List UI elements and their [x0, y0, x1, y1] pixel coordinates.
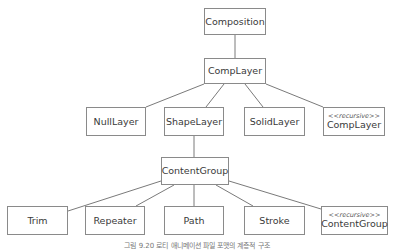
node-label: Trim [27, 216, 47, 226]
node-recursive-content-group: <<recursive>> ContentGroup [321, 206, 388, 235]
node-stroke: Stroke [244, 206, 305, 235]
node-label: ContentGroup [321, 219, 388, 229]
node-label: CompLayer [208, 66, 262, 76]
node-label: ContentGroup [162, 166, 229, 176]
node-shape-layer: ShapeLayer [164, 107, 224, 136]
node-label: Path [184, 216, 205, 226]
node-path: Path [164, 206, 224, 235]
node-label: SolidLayer [250, 117, 300, 127]
node-label: CompLayer [327, 120, 381, 130]
node-trim: Trim [7, 206, 68, 235]
node-label: Stroke [259, 216, 289, 226]
node-repeater: Repeater [85, 206, 145, 235]
node-label: NullLayer [94, 117, 139, 127]
node-content-group: ContentGroup [161, 157, 229, 185]
node-comp-layer: CompLayer [204, 58, 266, 84]
node-label: Composition [205, 17, 264, 27]
node-composition: Composition [204, 8, 266, 35]
node-label: ShapeLayer [166, 117, 222, 127]
figure-caption: 그림 9.20 로티 애니메이션 파일 포맷의 계층적 구조 [0, 240, 394, 250]
node-solid-layer: SolidLayer [244, 107, 305, 136]
node-null-layer: NullLayer [86, 107, 146, 136]
node-recursive-comp-layer: <<recursive>> CompLayer [323, 107, 385, 136]
node-label: Repeater [93, 216, 136, 226]
